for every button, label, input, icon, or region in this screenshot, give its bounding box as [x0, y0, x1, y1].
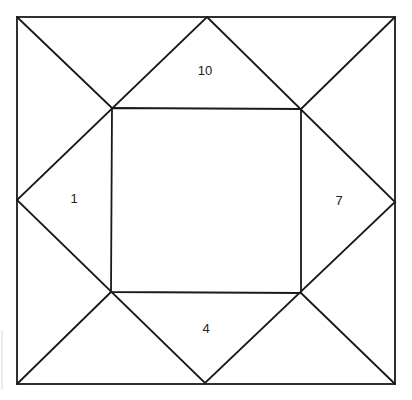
label-left-triangle: 1	[70, 191, 77, 206]
label-top-triangle: 10	[198, 63, 212, 78]
inner-square	[111, 108, 301, 293]
diagonal-bottom-right	[301, 293, 395, 384]
diagonal-bottom-left	[17, 292, 111, 384]
label-right-triangle: 7	[335, 193, 342, 208]
diagonal-top-left	[17, 17, 112, 108]
label-bottom-triangle: 4	[202, 321, 209, 336]
quilt-block-diagram: 10 7 4 1	[0, 0, 412, 400]
diagonal-top-right	[301, 17, 395, 109]
